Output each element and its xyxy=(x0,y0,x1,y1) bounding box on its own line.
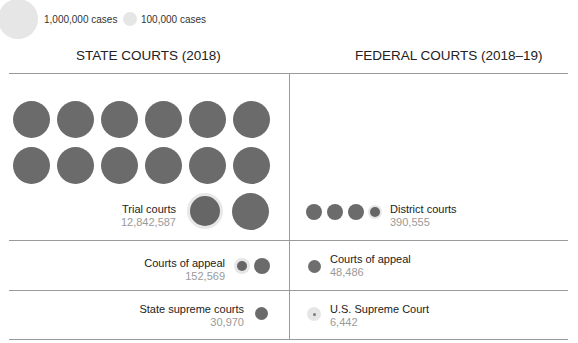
state-appeal-value: 152,569 xyxy=(185,270,225,283)
federal-supreme-label: U.S. Supreme Court xyxy=(330,303,429,316)
legend-small-label: 100,000 cases xyxy=(141,14,206,25)
state-trial-label: Trial courts xyxy=(122,203,176,216)
case-circle-icon xyxy=(189,147,226,184)
case-circle-icon xyxy=(327,204,343,220)
state-trial-value: 12,842,587 xyxy=(121,216,176,229)
state-courts-title: STATE COURTS (2018) xyxy=(76,48,221,63)
center-divider xyxy=(289,73,290,339)
partial-circle-icon xyxy=(255,307,268,320)
partial-circle-icon xyxy=(190,196,220,226)
federal-district-value: 390,555 xyxy=(390,216,430,229)
state-appeal-label: Courts of appeal xyxy=(144,257,225,270)
case-circle-icon xyxy=(189,101,226,138)
federal-appeal-value: 48,486 xyxy=(330,266,364,279)
case-circle-icon xyxy=(145,101,182,138)
case-circle-icon xyxy=(145,147,182,184)
legend-small-circle-icon xyxy=(123,12,137,26)
case-circle-icon xyxy=(13,101,50,138)
partial-circle-icon xyxy=(308,260,321,273)
legend-large-circle-icon xyxy=(0,0,38,39)
federal-appeal-label: Courts of appeal xyxy=(330,253,411,266)
federal-district-label: District courts xyxy=(390,203,457,216)
partial-circle-dot-icon xyxy=(313,313,316,316)
federal-supreme-value: 6,442 xyxy=(330,316,358,329)
row-divider-1 xyxy=(9,240,568,241)
case-circle-icon xyxy=(101,147,138,184)
case-circle-icon xyxy=(306,204,322,220)
row-divider-2 xyxy=(9,290,568,291)
partial-circle-icon xyxy=(370,207,380,217)
case-circle-icon xyxy=(101,101,138,138)
case-circle-icon xyxy=(232,193,269,230)
case-circle-icon xyxy=(233,101,270,138)
case-circle-icon xyxy=(57,147,94,184)
bottom-divider xyxy=(9,339,568,340)
state-supreme-value: 30,970 xyxy=(210,316,244,329)
legend-large-label: 1,000,000 cases xyxy=(44,14,117,25)
case-circle-icon xyxy=(57,101,94,138)
case-circle-icon xyxy=(13,147,50,184)
case-circle-icon xyxy=(348,204,364,220)
case-circle-icon xyxy=(233,147,270,184)
case-circle-icon xyxy=(254,258,270,274)
partial-circle-icon xyxy=(237,261,247,271)
federal-courts-title: FEDERAL COURTS (2018–19) xyxy=(355,48,543,63)
state-supreme-label: State supreme courts xyxy=(139,303,244,316)
